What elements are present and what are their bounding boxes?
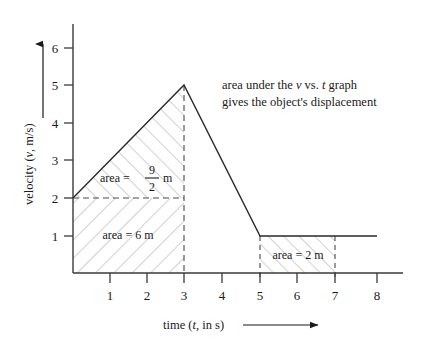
y-tick-label-5: 5: [52, 78, 59, 93]
x-axis-title: time (t, in s): [163, 318, 224, 332]
y-tick-label-4: 4: [52, 116, 59, 131]
y-axis-ticks: [64, 48, 73, 236]
y-axis-title-suffix: , m/s): [22, 123, 36, 151]
rectangle-area-label: area = 6 m: [102, 228, 154, 242]
y-axis-tick-labels: 6 5 4 3 2 1: [52, 41, 59, 244]
y-tick-label-1: 1: [52, 229, 59, 244]
y-tick-label-2: 2: [52, 191, 59, 206]
triangle-area-denominator: 2: [149, 180, 155, 194]
x-tick-label-6: 6: [294, 288, 301, 303]
velocity-time-graph-figure: 6 5 4 3 2 1 1 2 3 4 5 6 7 8 velocity (v,…: [0, 0, 421, 346]
y-axis-title-prefix: velocity (: [22, 157, 36, 205]
x-tick-label-2: 2: [144, 288, 151, 303]
triangle-area-prefix: area =: [100, 171, 130, 185]
x-tick-label-1: 1: [107, 288, 114, 303]
y-axis-title: velocity (v, m/s): [22, 123, 36, 205]
y-tick-label-3: 3: [52, 153, 59, 168]
x-tick-label-4: 4: [219, 288, 226, 303]
displacement-note-line2: gives the object's displacement: [222, 95, 377, 109]
x-tick-label-7: 7: [332, 288, 339, 303]
note-line1-part-a: area under the: [222, 78, 296, 92]
y-tick-label-6: 6: [52, 41, 59, 56]
x-axis-title-suffix: , in s): [196, 318, 224, 332]
note-line1-part-b: vs.: [301, 78, 322, 92]
x-tick-label-3: 3: [181, 288, 188, 303]
x-tick-label-8: 8: [374, 288, 381, 303]
x-axis-title-prefix: time (: [163, 318, 193, 332]
triangle-area-numerator: 9: [149, 163, 155, 177]
x-axis-tick-labels: 1 2 3 4 5 6 7 8: [107, 288, 381, 303]
triangle-area-unit: m: [163, 171, 173, 185]
x-axis-ticks: [110, 273, 377, 283]
note-line1-part-c: graph: [325, 78, 357, 92]
displacement-note-line1: area under the v vs. t graph: [222, 78, 358, 92]
plateau-area-label: area = 2 m: [272, 248, 324, 262]
graph-canvas: 6 5 4 3 2 1 1 2 3 4 5 6 7 8 velocity (v,…: [0, 0, 421, 346]
x-tick-label-5: 5: [257, 288, 264, 303]
